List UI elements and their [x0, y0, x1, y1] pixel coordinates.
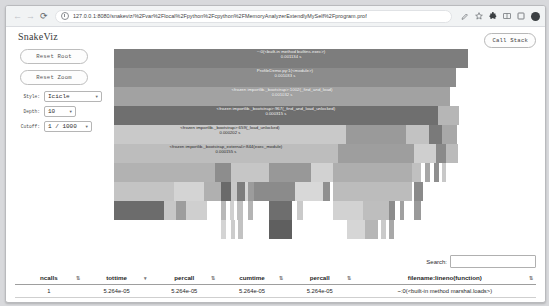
split-screen-icon[interactable] — [503, 12, 511, 20]
icicle-block[interactable]: ProfileDemo.py:1(<module>)0.001033 s — [114, 68, 456, 87]
icicle-block[interactable]: ~:0(<built-in method builtins.exec>)0.00… — [114, 49, 468, 68]
depth-select[interactable]: 10 ▼ — [44, 106, 76, 117]
icicle-tile[interactable] — [436, 144, 446, 163]
reset-root-button[interactable]: Reset Root — [20, 49, 88, 64]
star-icon[interactable] — [475, 12, 483, 20]
icicle-tile[interactable] — [414, 144, 436, 163]
icicle-tile[interactable] — [429, 125, 442, 144]
icicle-tile[interactable] — [425, 163, 430, 182]
icicle-tile[interactable] — [389, 220, 394, 239]
icicle-block-time: 0.001134 s — [114, 54, 468, 59]
icicle-block[interactable]: <frozen importlib._bootstrap_external>:8… — [114, 144, 338, 163]
icicle-tile[interactable] — [311, 163, 333, 182]
icicle-tile[interactable] — [323, 182, 330, 201]
icicle-tile[interactable] — [237, 182, 245, 201]
column-label: percall — [174, 274, 194, 281]
icicle-tile[interactable] — [333, 201, 362, 220]
icicle-tile[interactable] — [221, 201, 226, 220]
cell-cumtime: 5.264e-05 — [218, 285, 286, 298]
url-text: 127.0.0.1:8080/snakeviz/%2Fvar%2Flocal%2… — [73, 13, 367, 19]
icicle-tile[interactable] — [174, 182, 204, 201]
icicle-tile[interactable] — [238, 220, 243, 239]
sort-icon: ⇅ — [529, 275, 533, 280]
browser-square-icon[interactable] — [517, 12, 525, 20]
icicle-tile[interactable] — [237, 201, 243, 220]
icicle-tile[interactable] — [297, 201, 303, 220]
icicle-tile[interactable] — [434, 163, 439, 182]
column-header-percall-2[interactable]: percall ⇅ — [286, 271, 354, 285]
table-row[interactable]: 1 5.264e-05 5.264e-05 5.264e-05 5.264e-0… — [15, 285, 536, 298]
column-label: percall — [310, 274, 330, 281]
icicle-tile[interactable] — [254, 182, 295, 201]
icicle-tile[interactable] — [215, 163, 231, 182]
depth-value: 10 — [48, 108, 55, 115]
edit-bookmark-icon[interactable] — [461, 12, 469, 20]
icicle-block[interactable]: <frozen importlib._bootstrap>:659(_load_… — [114, 125, 346, 144]
icicle-tile[interactable] — [381, 220, 386, 239]
reset-zoom-button[interactable]: Reset Zoom — [20, 70, 88, 85]
icicle-tile[interactable] — [164, 201, 176, 220]
icicle-tile[interactable] — [446, 144, 458, 163]
icicle-tile[interactable] — [230, 201, 234, 220]
icicle-tile[interactable] — [221, 220, 226, 239]
icicle-tile[interactable] — [269, 220, 292, 239]
column-header-cumtime[interactable]: cumtime ⇅ — [218, 271, 286, 285]
icicle-tile[interactable] — [412, 163, 421, 182]
icicle-tile[interactable] — [338, 144, 414, 163]
sort-icon: ⇅ — [211, 275, 215, 280]
cutoff-select[interactable]: 1 / 1000 ▼ — [44, 121, 92, 132]
column-header-tottime[interactable]: tottime ▾ — [83, 271, 151, 285]
back-icon[interactable]: ← — [11, 10, 24, 23]
search-row: Search: — [15, 255, 536, 268]
icicle-tile[interactable] — [442, 125, 457, 144]
icicle-chart[interactable]: ~:0(<built-in method builtins.exec>)0.00… — [114, 49, 534, 251]
icicle-tile[interactable] — [176, 201, 186, 220]
cell-filename: ~:0(<built-in method marshal.loads>) — [354, 285, 536, 298]
icicle-tile[interactable] — [442, 163, 446, 182]
icicle-tile[interactable] — [221, 182, 231, 201]
icicle-tile[interactable] — [414, 201, 421, 220]
sort-icon: ▾ — [144, 275, 147, 280]
cell-percall-2: 5.264e-05 — [286, 285, 354, 298]
icicle-tile[interactable] — [414, 182, 423, 201]
column-header-ncalls[interactable]: ncalls ⇅ — [15, 271, 83, 285]
icicle-tile[interactable] — [333, 163, 412, 182]
search-input[interactable] — [450, 255, 536, 268]
icicle-tile[interactable] — [406, 125, 429, 144]
profile-avatar-icon[interactable] — [531, 12, 540, 21]
icicle-tile[interactable] — [269, 201, 292, 220]
depth-control-row: Depth: 10 ▼ — [20, 106, 110, 117]
icicle-tile[interactable] — [248, 201, 253, 220]
icicle-tile[interactable] — [231, 220, 235, 239]
column-header-percall-1[interactable]: percall ⇅ — [150, 271, 218, 285]
icicle-block-time: 0.001032 s — [114, 92, 450, 97]
icicle-tile[interactable] — [114, 163, 215, 182]
icicle-tile[interactable] — [347, 220, 365, 239]
reload-icon[interactable]: ⟳ — [37, 10, 50, 23]
style-select[interactable]: Icicle ▼ — [44, 91, 102, 102]
call-stack-button[interactable]: Call Stack — [484, 33, 536, 48]
icicle-tile[interactable] — [333, 182, 412, 201]
icicle-tile[interactable] — [389, 201, 395, 220]
extensions-icon[interactable] — [489, 12, 497, 20]
icicle-tile[interactable] — [114, 201, 164, 220]
icicle-tile[interactable] — [269, 163, 312, 182]
icicle-tile[interactable] — [295, 182, 322, 201]
icicle-tile[interactable] — [363, 201, 389, 220]
icicle-tile[interactable] — [346, 125, 406, 144]
icicle-block[interactable]: <frozen importlib._bootstrap>:967(_find_… — [114, 106, 438, 125]
icicle-tile[interactable] — [400, 201, 404, 220]
column-header-filename[interactable]: filename:lineno(function) ⇅ — [354, 271, 536, 285]
icicle-block[interactable]: <frozen importlib._bootstrap>:1002(_find… — [114, 87, 450, 106]
address-bar[interactable]: 127.0.0.1:8080/snakeviz/%2Fvar%2Flocal%2… — [55, 10, 452, 23]
table-header-row: ncalls ⇅ tottime ▾ percall ⇅ cumtime — [15, 271, 536, 285]
site-info-icon[interactable] — [61, 12, 69, 20]
icicle-tile[interactable] — [204, 182, 221, 201]
icicle-tile[interactable] — [186, 201, 207, 220]
icicle-tile[interactable] — [114, 182, 174, 201]
forward-icon[interactable]: → — [24, 10, 37, 23]
style-label: Style: — [20, 94, 40, 99]
icicle-tile[interactable] — [231, 163, 269, 182]
icicle-tile[interactable] — [438, 106, 459, 125]
icicle-tile[interactable] — [365, 220, 378, 239]
